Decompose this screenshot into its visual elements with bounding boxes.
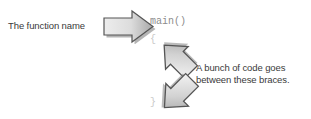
caption-braces-line-1: A bunch of code goes	[196, 62, 290, 74]
caption-braces: A bunch of code goes between these brace…	[196, 62, 290, 85]
figure-canvas: The function name main() { }	[0, 0, 311, 119]
arrow-right-icon	[100, 8, 156, 44]
code-function-signature: main()	[150, 16, 186, 28]
caption-braces-line-2: between these braces.	[196, 74, 290, 86]
label-function-name: The function name	[8, 20, 85, 32]
